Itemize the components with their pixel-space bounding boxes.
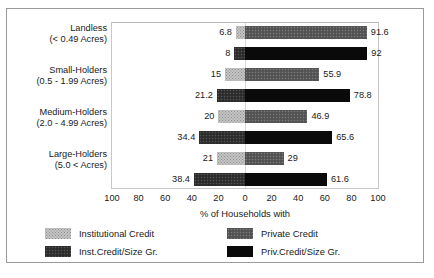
chart-figure: Landless(< 0.49 Acres)Small-Holders(0.5 …: [6, 8, 424, 263]
x-axis-title: % of Households with: [111, 208, 379, 219]
x-tick-label: 100: [99, 191, 125, 205]
bar-institutional-credit: [218, 110, 245, 123]
category-range: (2.0 - 4.99 Acres): [3, 118, 107, 129]
bar-group: 892: [112, 47, 378, 60]
bar-priv-credit-size-gr: [245, 173, 327, 186]
bar-row: 2129: [112, 152, 378, 165]
bar-private-credit: [245, 68, 319, 81]
x-tick-label: 40: [285, 191, 311, 205]
bar-value-left: 38.4: [172, 173, 190, 186]
category-range: (< 0.49 Acres): [3, 34, 107, 45]
bar-value-right: 29: [288, 152, 298, 165]
bar-private-credit: [245, 152, 284, 165]
bar-row: 38.461.6: [112, 173, 378, 186]
bar-institutional-credit: [225, 68, 245, 81]
bar-group: 6.891.6: [112, 26, 378, 39]
x-axis-tick-labels: 10080604020020406080100: [111, 191, 379, 205]
x-tick-label: 80: [126, 191, 152, 205]
bar-row: 1555.9: [112, 68, 378, 81]
bar-inst-credit-size-gr: [234, 47, 245, 60]
bar-inst-credit-size-gr: [194, 173, 245, 186]
bar-row: 34.465.6: [112, 131, 378, 144]
bar-value-right: 55.9: [323, 68, 341, 81]
priv-sg-swatch: [227, 246, 253, 257]
plot-area: 6.891.68921555.921.278.82046.934.465.621…: [111, 22, 379, 189]
category-name: Landless: [3, 23, 107, 34]
legend-label: Priv.Credit/Size Gr.: [261, 245, 340, 258]
bar-group: 34.465.6: [112, 131, 378, 144]
bar-institutional-credit: [217, 152, 245, 165]
x-tick-label: 100: [365, 191, 391, 205]
bar-row: 2046.9: [112, 110, 378, 123]
bar-value-right: 92: [371, 47, 381, 60]
bar-institutional-credit: [236, 26, 245, 39]
bar-group: 38.461.6: [112, 173, 378, 186]
x-tick-label: 60: [312, 191, 338, 205]
category-range: (5.0 < Acres): [3, 160, 107, 171]
bar-priv-credit-size-gr: [245, 131, 332, 144]
bar-value-left: 21: [203, 152, 213, 165]
bar-priv-credit-size-gr: [245, 47, 367, 60]
bar-inst-credit-size-gr: [199, 131, 245, 144]
bar-group: 2129: [112, 152, 378, 165]
inst-swatch: [45, 228, 71, 239]
bar-value-left: 15: [211, 68, 221, 81]
category-label-4: Large-Holders(5.0 < Acres): [3, 149, 107, 171]
category-label-2: Small-Holders(0.5 - 1.99 Acres): [3, 65, 107, 87]
bar-inst-credit-size-gr: [217, 89, 245, 102]
bar-row: 892: [112, 47, 378, 60]
x-tick-label: 20: [205, 191, 231, 205]
bar-private-credit: [245, 26, 367, 39]
bar-value-left: 6.8: [219, 26, 232, 39]
category-range: (0.5 - 1.99 Acres): [3, 76, 107, 87]
category-name: Medium-Holders: [3, 107, 107, 118]
bar-priv-credit-size-gr: [245, 89, 350, 102]
bar-value-left: 21.2: [195, 89, 213, 102]
legend-label: Private Credit: [261, 227, 318, 240]
x-tick-label: 80: [338, 191, 364, 205]
chart-legend: Institutional CreditPrivate CreditInst.C…: [45, 227, 395, 261]
x-tick-label: 20: [259, 191, 285, 205]
bar-row: 21.278.8: [112, 89, 378, 102]
category-label-1: Landless(< 0.49 Acres): [3, 23, 107, 45]
bar-group: 2046.9: [112, 110, 378, 123]
bar-group: 21.278.8: [112, 89, 378, 102]
bar-value-right: 78.8: [354, 89, 372, 102]
bar-value-left: 20: [204, 110, 214, 123]
inst-sg-swatch: [45, 246, 71, 257]
x-tick-label: 40: [179, 191, 205, 205]
bar-value-right: 61.6: [331, 173, 349, 186]
priv-swatch: [227, 228, 253, 239]
bar-private-credit: [245, 110, 307, 123]
bar-value-right: 65.6: [336, 131, 354, 144]
legend-label: Inst.Credit/Size Gr.: [79, 245, 158, 258]
category-name: Small-Holders: [3, 65, 107, 76]
bar-value-right: 91.6: [371, 26, 389, 39]
bar-group: 1555.9: [112, 68, 378, 81]
bar-row: 6.891.6: [112, 26, 378, 39]
x-tick-label: 0: [232, 191, 258, 205]
category-label-3: Medium-Holders(2.0 - 4.99 Acres): [3, 107, 107, 129]
category-name: Large-Holders: [3, 149, 107, 160]
bar-value-right: 46.9: [311, 110, 329, 123]
bar-value-left: 8: [225, 47, 230, 60]
legend-label: Institutional Credit: [79, 227, 154, 240]
category-label-column: Landless(< 0.49 Acres)Small-Holders(0.5 …: [7, 19, 111, 187]
x-tick-label: 60: [152, 191, 178, 205]
bar-value-left: 34.4: [177, 131, 195, 144]
